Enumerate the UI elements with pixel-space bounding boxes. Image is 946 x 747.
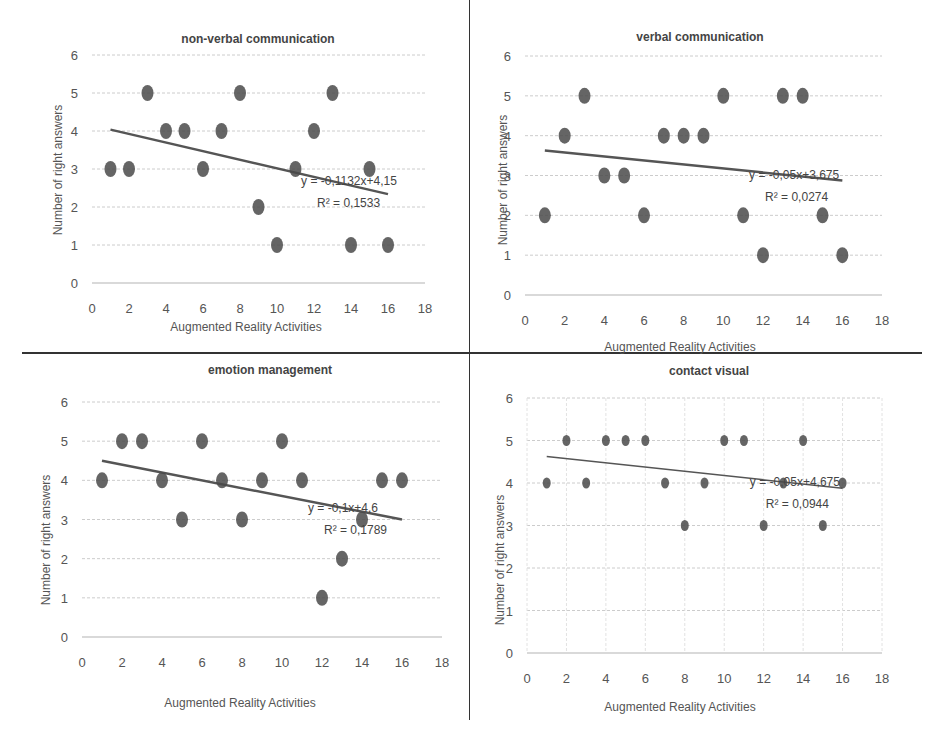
x-tick-label: 6: [642, 671, 649, 686]
data-point: [819, 520, 827, 531]
x-tick-label: 16: [835, 671, 849, 686]
y-tick-label: 4: [506, 476, 513, 491]
trendline-equation: y = -0,05x+4,675: [750, 475, 840, 489]
y-tick-label: 6: [506, 391, 513, 406]
y-tick-label: 0: [506, 646, 513, 661]
data-point: [799, 435, 807, 446]
x-tick-label: 2: [563, 671, 570, 686]
data-point: [543, 478, 551, 489]
y-tick-label: 5: [506, 434, 513, 449]
x-tick-label: 10: [717, 671, 731, 686]
x-tick-label: 8: [681, 671, 688, 686]
x-tick-label: 18: [875, 671, 889, 686]
y-tick-label: 3: [506, 519, 513, 534]
scatter-plot: 0123456024681012141618y = -0,05x+4,675R²…: [0, 0, 946, 747]
data-point: [720, 435, 728, 446]
data-point: [681, 520, 689, 531]
data-point: [760, 520, 768, 531]
data-point: [602, 435, 610, 446]
data-point: [701, 478, 709, 489]
data-point: [740, 435, 748, 446]
data-point: [562, 435, 570, 446]
x-tick-label: 0: [523, 671, 530, 686]
y-tick-label: 2: [506, 561, 513, 576]
data-point: [622, 435, 630, 446]
data-point: [582, 478, 590, 489]
x-tick-label: 12: [756, 671, 770, 686]
r-squared-label: R² = 0,0944: [766, 497, 829, 511]
x-tick-label: 14: [796, 671, 810, 686]
data-point: [641, 435, 649, 446]
data-point: [661, 478, 669, 489]
y-tick-label: 1: [506, 604, 513, 619]
x-tick-label: 4: [602, 671, 609, 686]
